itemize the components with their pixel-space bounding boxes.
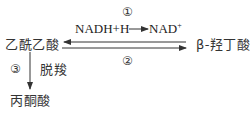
reaction-3-label: ③ [10,63,21,75]
cofactor-equation: NADH+H [75,22,129,35]
node-acetoacetate: 乙酰乙酸 [5,38,59,51]
node-acetone: 丙酮酸 [10,94,51,107]
cofactor-from: NADH+H [75,21,129,36]
node-beta-hydroxybutyrate: β-羟丁酸 [196,38,250,51]
cofactor-charge: + [177,21,182,30]
reaction-3-process: 脱羧 [40,63,67,76]
cofactor-product: NAD+ [149,22,182,35]
reaction-1-label: ① [122,6,133,18]
reaction-2-label: ② [122,55,133,67]
cofactor-to: NAD [149,21,177,36]
